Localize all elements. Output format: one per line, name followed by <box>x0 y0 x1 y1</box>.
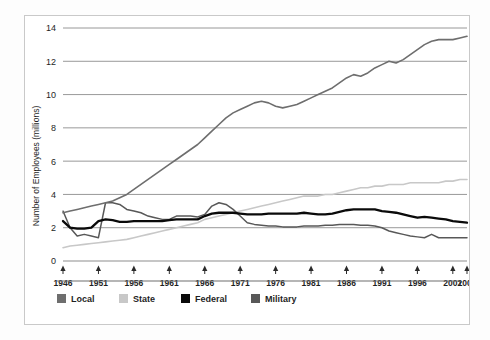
legend-label-local: Local <box>71 294 95 304</box>
x-tick-marker-2001 <box>450 266 455 272</box>
y-tick-label-6: 6 <box>51 157 56 167</box>
x-axis-tick-labels: 1946195119561961196619711976198119861991… <box>54 278 469 288</box>
legend-swatch-military <box>251 294 260 303</box>
legend-swatch-state <box>119 294 128 303</box>
y-tick-label-12: 12 <box>46 57 56 67</box>
legend-label-military: Military <box>265 294 297 304</box>
x-tick-label-1986: 1986 <box>337 278 356 288</box>
y-tick-label-14: 14 <box>46 23 56 33</box>
x-tick-label-1976: 1976 <box>266 278 285 288</box>
x-tick-marker-2003 <box>464 266 469 272</box>
legend-swatch-local <box>57 294 66 303</box>
employment-line-chart: 02468101214 1946195119561961196619711976… <box>25 16 469 324</box>
x-tick-marker-1966 <box>202 266 207 272</box>
y-axis-title: Number of Employees (millions) <box>31 106 41 227</box>
x-tick-marker-1996 <box>415 266 420 272</box>
legend-swatch-federal <box>181 294 190 303</box>
x-tick-marker-1961 <box>167 266 172 272</box>
y-tick-label-10: 10 <box>46 90 56 100</box>
chart-frame: 02468101214 1946195119561961196619711976… <box>24 15 470 325</box>
x-tick-marker-1991 <box>379 266 384 272</box>
x-tick-label-1961: 1961 <box>160 278 179 288</box>
x-tick-marker-1976 <box>273 266 278 272</box>
x-tick-marker-1946 <box>60 266 65 272</box>
x-tick-label-1971: 1971 <box>231 278 250 288</box>
x-tick-marker-1956 <box>131 266 136 272</box>
x-tick-label-1981: 1981 <box>302 278 321 288</box>
y-tick-label-8: 8 <box>51 123 56 133</box>
y-tick-label-4: 4 <box>51 190 56 200</box>
legend-label-state: State <box>133 294 155 304</box>
legend-label-federal: Federal <box>195 294 227 304</box>
y-tick-label-0: 0 <box>51 256 56 266</box>
data-series-group <box>63 36 467 247</box>
x-tick-label-1951: 1951 <box>89 278 108 288</box>
x-tick-marker-1986 <box>344 266 349 272</box>
x-tick-marker-1981 <box>308 266 313 272</box>
chart-figure: 02468101214 1946195119561961196619711976… <box>0 0 490 340</box>
x-tick-label-1946: 1946 <box>54 278 73 288</box>
series-line-military <box>63 203 467 238</box>
x-tick-marker-1951 <box>96 266 101 272</box>
x-axis-tick-marks <box>60 266 469 275</box>
y-axis-tick-labels: 02468101214 <box>46 23 56 266</box>
chart-legend: LocalStateFederalMilitary <box>57 294 297 304</box>
x-tick-label-1991: 1991 <box>372 278 391 288</box>
x-tick-label-1996: 1996 <box>408 278 427 288</box>
series-line-local <box>63 36 467 212</box>
x-tick-label-1956: 1956 <box>124 278 143 288</box>
x-tick-label-2003: 2003 <box>458 278 469 288</box>
y-tick-label-2: 2 <box>51 223 56 233</box>
x-tick-marker-1971 <box>238 266 243 272</box>
x-tick-label-1966: 1966 <box>195 278 214 288</box>
